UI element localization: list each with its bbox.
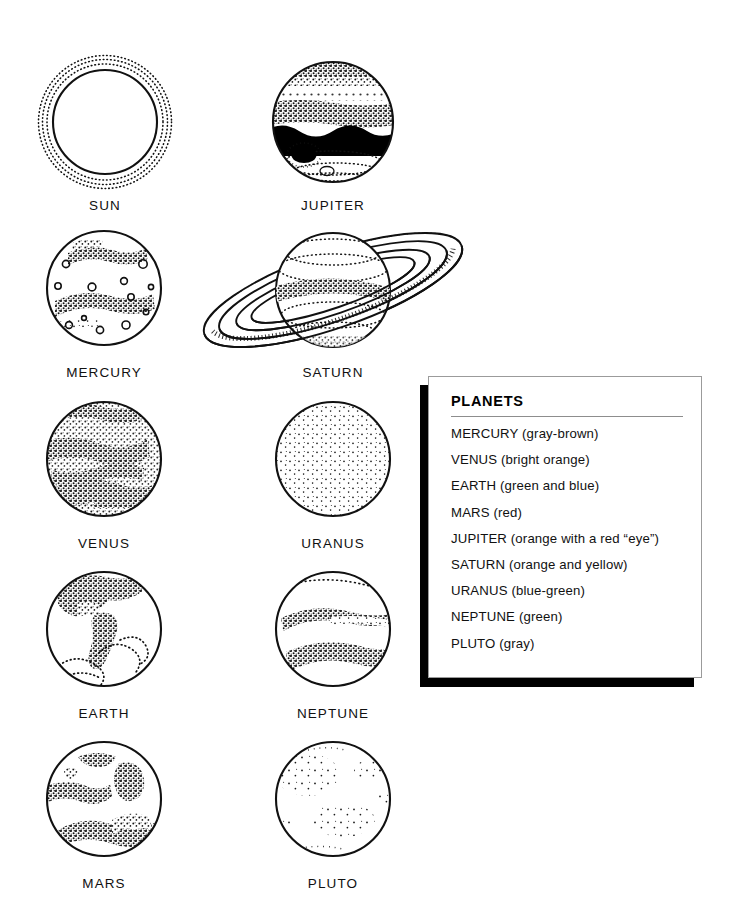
legend-item-jupiter: JUPITER (orange with a red “eye”) [451, 532, 683, 558]
body-saturn [192, 210, 474, 370]
label-jupiter: JUPITER [263, 198, 403, 213]
label-mercury: MERCURY [34, 365, 174, 380]
body-uranus [270, 396, 396, 522]
body-mars [44, 742, 161, 856]
legend-item-venus: VENUS (bright orange) [451, 453, 683, 479]
legend-item-saturn: SATURN (orange and yellow) [451, 558, 683, 584]
diagram-canvas: SUN JUPITER MERCURY SATURN VENUS URANUS … [0, 0, 737, 897]
label-pluto: PLUTO [263, 876, 403, 891]
body-sun [38, 55, 172, 189]
label-venus: VENUS [34, 536, 174, 551]
body-earth [47, 572, 161, 686]
body-neptune [276, 572, 396, 686]
label-earth: EARTH [34, 706, 174, 721]
label-saturn: SATURN [263, 365, 403, 380]
legend-panel: PLANETS MERCURY (gray-brown) VENUS (brig… [428, 376, 702, 678]
legend-item-pluto: PLUTO (gray) [451, 637, 683, 663]
body-jupiter [265, 57, 405, 185]
body-venus [46, 402, 161, 516]
legend-divider [451, 416, 683, 417]
body-mercury [47, 231, 161, 345]
body-pluto [275, 742, 391, 856]
legend-item-mercury: MERCURY (gray-brown) [451, 427, 683, 453]
label-uranus: URANUS [263, 536, 403, 551]
legend-list: MERCURY (gray-brown) VENUS (bright orang… [451, 427, 683, 663]
legend-item-uranus: URANUS (blue-green) [451, 584, 683, 610]
legend-item-earth: EARTH (green and blue) [451, 479, 683, 505]
legend-item-mars: MARS (red) [451, 506, 683, 532]
label-sun: SUN [35, 198, 175, 213]
label-mars: MARS [34, 876, 174, 891]
label-neptune: NEPTUNE [263, 706, 403, 721]
legend-title: PLANETS [451, 393, 683, 416]
legend-item-neptune: NEPTUNE (green) [451, 610, 683, 636]
